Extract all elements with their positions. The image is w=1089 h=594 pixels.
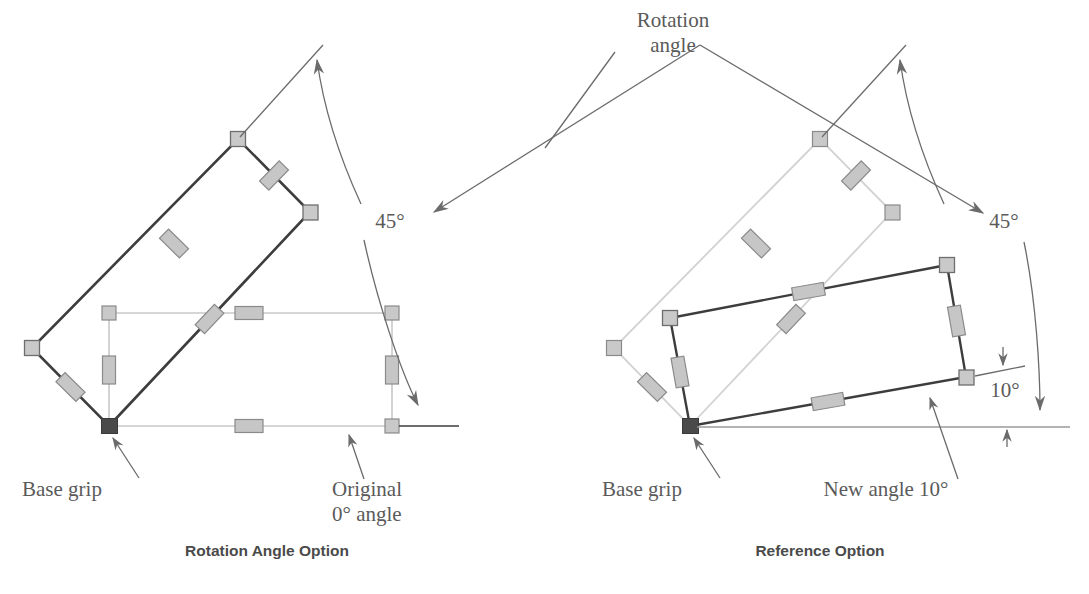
grip-midpoint-handle[interactable] — [159, 229, 188, 258]
grip-corner-square[interactable] — [959, 370, 974, 385]
rotation-angle-label-line1: Rotation — [637, 8, 710, 32]
base-grip-marker[interactable] — [683, 419, 699, 434]
new-angle-label: New angle 10° — [823, 477, 948, 501]
grip-midpoint-handle[interactable] — [235, 420, 263, 433]
grip-corner-square[interactable] — [385, 419, 399, 433]
rotation-angle-label-line2: angle — [650, 33, 695, 57]
grip-midpoint-handle[interactable] — [811, 392, 845, 410]
rotation-angle-leader-left — [434, 45, 700, 212]
diagram-page: 45° Base grip Original 0° angle Rotation… — [0, 0, 1089, 594]
rotation-diagram-svg: 45° Base grip Original 0° angle Rotation… — [0, 0, 1089, 594]
rotation-angle-leader-right — [700, 45, 983, 213]
grip-midpoint-handle[interactable] — [947, 305, 965, 337]
grip-corner-square[interactable] — [303, 205, 318, 220]
base-grip-leader-line — [113, 438, 139, 478]
original-angle-label-line2: 0° angle — [332, 502, 402, 526]
original-angle-leader-line — [349, 435, 364, 479]
angle-arc-upper — [317, 60, 361, 204]
ghost-rectangle-grips — [607, 132, 901, 402]
angle-arc-upper — [900, 60, 944, 204]
new-angle-leader-line — [930, 398, 958, 479]
rotation-ray-line — [822, 45, 906, 137]
grip-midpoint-handle[interactable] — [56, 373, 85, 402]
grip-midpoint-handle[interactable] — [671, 356, 689, 388]
grip-corner-square[interactable] — [385, 306, 399, 320]
left-panel-caption: Rotation Angle Option — [185, 542, 349, 559]
new-rectangle-grips — [663, 258, 975, 411]
right-panel-caption: Reference Option — [755, 542, 884, 559]
rotation-angle-tick-left — [545, 52, 615, 148]
grip-corner-square[interactable] — [102, 306, 116, 320]
original-rectangle-ghost — [109, 313, 392, 426]
grip-midpoint-handle[interactable] — [386, 356, 399, 384]
grip-midpoint-handle[interactable] — [103, 356, 116, 384]
right-panel: 45° 10° Base grip New angle 10° Referenc… — [602, 45, 1070, 559]
base-grip-leader-line — [694, 438, 720, 478]
base-grip-label: Base grip — [22, 477, 102, 501]
ten-degree-guide-line — [975, 366, 1025, 376]
angle-label-45: 45° — [375, 209, 404, 233]
grip-midpoint-handle[interactable] — [195, 304, 224, 333]
rotation-angle-annotation: Rotation angle — [434, 8, 983, 213]
grip-corner-square[interactable] — [663, 311, 678, 326]
base-grip-marker[interactable] — [102, 419, 118, 434]
grip-corner-square[interactable] — [607, 341, 622, 356]
left-panel: 45° Base grip Original 0° angle Rotation… — [22, 45, 459, 559]
grip-corner-square[interactable] — [885, 205, 900, 220]
grip-midpoint-handle[interactable] — [792, 282, 826, 300]
original-angle-label-line1: Original — [332, 477, 402, 501]
base-grip-label: Base grip — [602, 477, 682, 501]
angle-arc-lower — [1024, 242, 1040, 410]
grip-midpoint-handle[interactable] — [235, 307, 263, 320]
grip-corner-square[interactable] — [940, 258, 955, 273]
ten-degree-label: 10° — [990, 378, 1019, 402]
rotation-ray-line — [240, 45, 323, 137]
original-rectangle-grips — [102, 306, 399, 433]
grip-midpoint-handle[interactable] — [777, 304, 806, 333]
grip-midpoint-handle[interactable] — [637, 373, 666, 402]
grip-corner-square[interactable] — [25, 341, 40, 356]
grip-midpoint-handle[interactable] — [741, 229, 770, 258]
angle-label-45: 45° — [989, 209, 1018, 233]
